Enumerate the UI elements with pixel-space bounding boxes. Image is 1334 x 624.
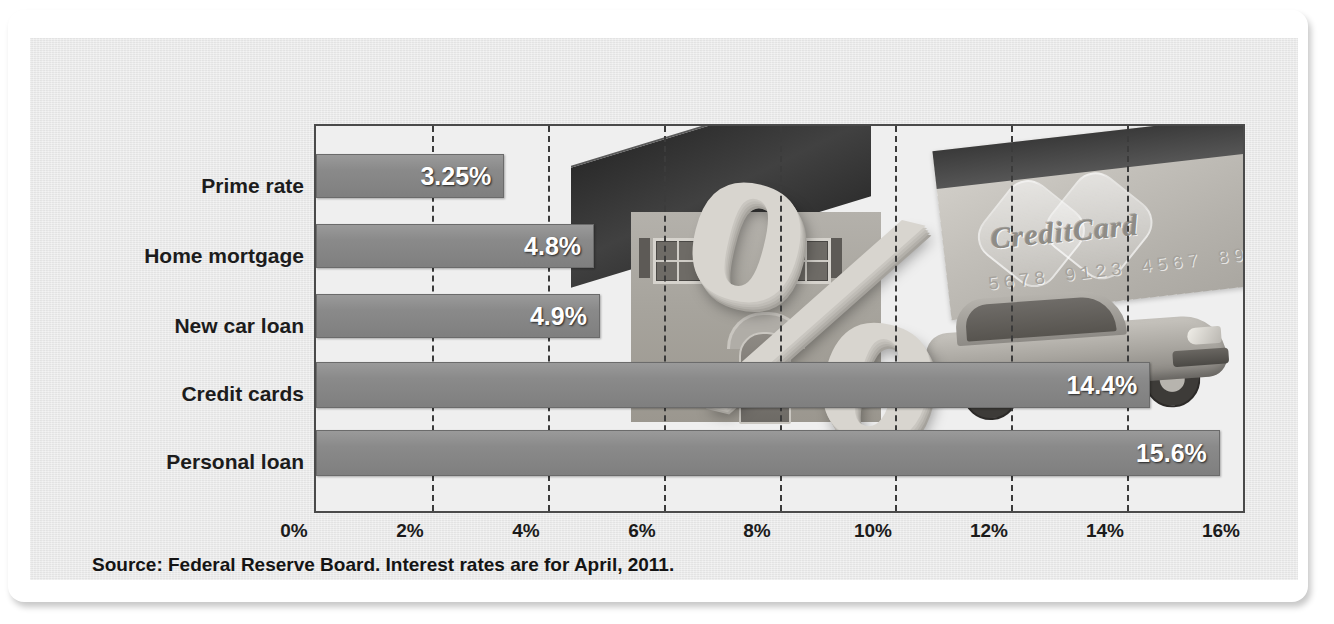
source-note: Source: Federal Reserve Board. Interest … (92, 554, 674, 576)
bar-home-mortgage[interactable]: 4.8% (316, 224, 594, 268)
xtick-label-6: 6% (628, 520, 655, 542)
chart-panel: Prime rate Home mortgage New car loan Cr… (30, 38, 1298, 580)
bar-prime-rate[interactable]: 3.25% (316, 154, 504, 198)
xtick-label-2: 2% (396, 520, 423, 542)
credit-card-logo-diamond-right (1036, 163, 1162, 289)
house-shutter-4 (831, 238, 842, 278)
chart-screenshot: Prime rate Home mortgage New car loan Cr… (0, 0, 1334, 624)
bar-personal-loan[interactable]: 15.6% (316, 430, 1220, 476)
bar-value-personal-loan: 15.6% (1136, 439, 1219, 468)
xtick-label-14: 14% (1086, 520, 1124, 542)
bar-value-prime-rate: 3.25% (420, 162, 503, 191)
car-windshield (965, 295, 1117, 341)
bar-value-home-mortgage: 4.8% (524, 232, 593, 261)
category-label-personal-loan: Personal loan (54, 450, 304, 474)
car-headlight (1187, 326, 1222, 345)
bar-credit-cards[interactable]: 14.4% (316, 362, 1150, 408)
xtick-label-0: 0% (280, 520, 307, 542)
category-label-home-mortgage: Home mortgage (54, 244, 304, 268)
house-window-left (653, 238, 703, 284)
xtick-label-8: 8% (743, 520, 770, 542)
xtick-label-10: 10% (854, 520, 892, 542)
chart-card: Prime rate Home mortgage New car loan Cr… (8, 10, 1308, 602)
house-door-arch (727, 312, 805, 349)
category-label-credit-cards: Credit cards (54, 382, 304, 406)
bar-value-new-car-loan: 4.9% (530, 302, 599, 331)
credit-card-number: 5678 9123 4567 8912 (987, 241, 1245, 296)
house-shutter-3 (767, 238, 778, 278)
xtick-label-12: 12% (970, 520, 1008, 542)
house-window-right (781, 238, 831, 284)
xtick-label-16: 16% (1202, 520, 1240, 542)
car-wheel-front (1142, 349, 1202, 409)
house-roof (571, 124, 871, 288)
credit-card-magnetic-strip (932, 124, 1245, 189)
credit-card-logo-diamond-left (968, 170, 1094, 296)
category-label-prime-rate: Prime rate (54, 174, 304, 198)
house-shutter-2 (703, 238, 714, 278)
xtick-label-4: 4% (512, 520, 539, 542)
car-cabin (954, 289, 1127, 347)
plot-area: CreditCard 5678 9123 4567 8912 % (314, 124, 1245, 513)
bar-value-credit-cards: 14.4% (1066, 371, 1149, 400)
car-grille (1172, 347, 1229, 367)
category-label-new-car-loan: New car loan (54, 314, 304, 338)
category-axis: Prime rate Home mortgage New car loan Cr… (42, 124, 304, 513)
bar-new-car-loan[interactable]: 4.9% (316, 294, 600, 338)
credit-card-image: CreditCard 5678 9123 4567 8912 (932, 124, 1245, 320)
house-shutter-1 (639, 238, 650, 278)
